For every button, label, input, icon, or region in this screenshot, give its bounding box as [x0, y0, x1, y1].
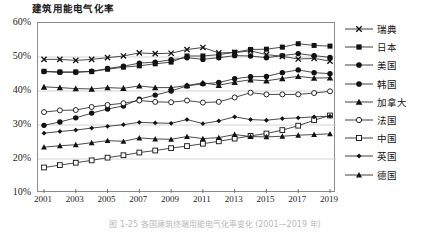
legend-marker-icon — [344, 22, 374, 36]
x-axis-label: 2007 — [129, 194, 147, 204]
legend-item-label: 美国 — [377, 58, 397, 72]
legend-item[interactable]: 英国 — [344, 147, 428, 165]
page-title: 建筑用能电气化率 — [32, 1, 114, 15]
chart-root: 建筑用能电气化率 10%20%30%40%50%60% 200120032005… — [0, 0, 430, 234]
legend-item-label: 加拿大 — [377, 95, 408, 109]
legend-item[interactable]: 法国 — [344, 111, 428, 129]
y-axis-label: 20% — [0, 152, 31, 163]
x-axis-label: 2011 — [193, 194, 211, 204]
plot-area — [37, 22, 335, 192]
legend-marker-icon — [344, 149, 374, 163]
legend-item[interactable]: 美国 — [344, 56, 428, 74]
x-axis-label: 2003 — [66, 194, 84, 204]
legend-item[interactable]: 瑞典 — [344, 20, 428, 38]
legend-marker-icon — [344, 131, 374, 145]
y-axis-label: 50% — [0, 50, 31, 61]
x-axis-label: 2009 — [161, 194, 179, 204]
x-axis-label: 2005 — [98, 194, 116, 204]
x-axis-label: 2001 — [34, 194, 52, 204]
legend-item-label: 中国 — [377, 131, 397, 145]
legend-item[interactable]: 德国 — [344, 166, 428, 184]
legend-item-label: 韩国 — [377, 77, 397, 91]
x-axis-label: 2015 — [256, 194, 274, 204]
x-axis-label: 2019 — [320, 194, 338, 204]
legend-item-label: 日本 — [377, 40, 397, 54]
y-axis-tick-labels: 10%20%30%40%50%60% — [0, 0, 37, 234]
legend-marker-icon — [344, 95, 374, 109]
x-axis-label: 2013 — [225, 194, 243, 204]
legend-item[interactable]: 日本 — [344, 38, 428, 56]
legend-marker-icon — [344, 58, 374, 72]
series-line — [41, 73, 333, 92]
y-axis-label: 60% — [0, 16, 31, 27]
legend-item-label: 法国 — [377, 113, 397, 127]
legend-item[interactable]: 加拿大 — [344, 93, 428, 111]
legend-item-label: 瑞典 — [377, 22, 397, 36]
series-line — [42, 89, 333, 115]
legend-marker-icon — [344, 40, 374, 54]
legend-item-label: 德国 — [377, 168, 397, 182]
legend-marker-icon — [344, 168, 374, 182]
legend-item[interactable]: 中国 — [344, 129, 428, 147]
series-line — [42, 114, 333, 136]
y-axis-label: 10% — [0, 186, 31, 197]
legend-item[interactable]: 韩国 — [344, 75, 428, 93]
data-series-layer — [38, 23, 336, 193]
legend-marker-icon — [344, 113, 374, 127]
legend: 瑞典日本美国韩国加拿大法国中国英国德国 — [344, 20, 428, 184]
figure-caption: 图 1-25 各国建筑终端用能电气化率变化 (2001—2019 年) — [0, 218, 430, 229]
legend-marker-icon — [344, 77, 374, 91]
y-axis-label: 40% — [0, 84, 31, 95]
legend-item-label: 英国 — [377, 149, 397, 163]
y-axis-label: 30% — [0, 118, 31, 129]
x-axis-label: 2017 — [288, 194, 306, 204]
